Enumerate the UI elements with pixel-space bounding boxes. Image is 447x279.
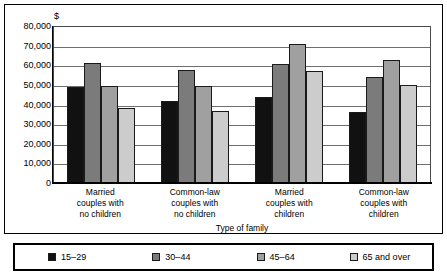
x-axis-title: Type of family (53, 223, 431, 233)
x-axis-line (53, 182, 432, 184)
chart-legend: 15–2930–4445–6465 and over (13, 243, 434, 271)
x-axis-category-label: Common-lawcouples withno children (148, 187, 243, 220)
bar-group (242, 27, 336, 182)
y-axis-tick-label: 20,000 (5, 140, 51, 149)
bar-group (54, 27, 148, 182)
bar-group (336, 27, 430, 182)
legend-item[interactable]: 15–29 (15, 252, 119, 262)
x-axis-category-label: Marriedcouples withchildren (242, 187, 337, 220)
legend-item[interactable]: 30–44 (119, 252, 223, 262)
x-axis-category-label: Marriedcouples withno children (53, 187, 148, 220)
bar[interactable] (195, 86, 212, 182)
chart-figure: $ 80,00070,00060,00050,00040,00030,00020… (0, 0, 447, 279)
y-axis-tick-label: 80,000 (5, 22, 51, 31)
legend-label: 30–44 (165, 252, 190, 262)
bar[interactable] (366, 77, 383, 182)
y-axis-tick-label: 0 (5, 179, 51, 188)
legend-swatch (350, 253, 358, 261)
bar[interactable] (212, 111, 229, 182)
legend-swatch (48, 253, 56, 261)
bar[interactable] (306, 71, 323, 182)
legend-item[interactable]: 65 and over (328, 252, 432, 262)
bar[interactable] (118, 108, 135, 182)
plot-area (53, 26, 431, 183)
bar[interactable] (161, 101, 178, 182)
bar[interactable] (383, 60, 400, 182)
x-axis-category-label: Common-lawcouples withchildren (337, 187, 432, 220)
legend-label: 65 and over (363, 252, 411, 262)
bar[interactable] (101, 86, 118, 182)
y-axis-tick-label: 60,000 (5, 61, 51, 70)
x-axis-category-labels: Marriedcouples withno childrenCommon-law… (53, 187, 431, 220)
bar[interactable] (272, 64, 289, 182)
y-axis: 80,00070,00060,00050,00040,00030,00020,0… (5, 5, 51, 235)
legend-label: 15–29 (61, 252, 86, 262)
bar[interactable] (349, 112, 366, 182)
legend-swatch (152, 253, 160, 261)
y-axis-tick-label: 50,000 (5, 81, 51, 90)
chart-panel: $ 80,00070,00060,00050,00040,00030,00020… (4, 4, 443, 234)
bar[interactable] (84, 63, 101, 182)
bar[interactable] (289, 44, 306, 182)
y-axis-tick-label: 40,000 (5, 101, 51, 110)
bar-group (148, 27, 242, 182)
legend-label: 45–64 (270, 252, 295, 262)
y-axis-tick-label: 10,000 (5, 159, 51, 168)
y-axis-tick-label: 30,000 (5, 120, 51, 129)
legend-swatch (257, 253, 265, 261)
legend-item[interactable]: 45–64 (224, 252, 328, 262)
bar-groups (54, 27, 430, 182)
bar[interactable] (178, 70, 195, 182)
bar[interactable] (400, 85, 417, 182)
bar[interactable] (255, 97, 272, 182)
y-axis-tick-label: 70,000 (5, 42, 51, 51)
bar[interactable] (67, 87, 84, 182)
